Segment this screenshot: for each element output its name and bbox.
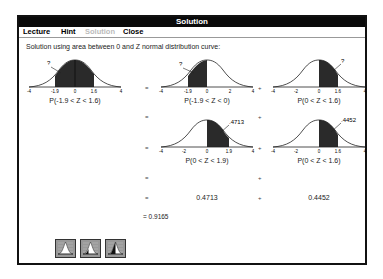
caption-graph-4: P(0 < Z < 1.9)	[157, 157, 257, 164]
svg-text:4: 4	[120, 89, 123, 94]
equals-sign: =	[145, 85, 149, 91]
svg-text:1.9: 1.9	[226, 149, 233, 154]
normal-curve-graph-2: ? -4-1.9024	[157, 55, 257, 99]
svg-text:2: 2	[229, 89, 232, 94]
svg-text:4: 4	[252, 89, 255, 94]
unshaded-curve-button[interactable]	[55, 239, 76, 258]
menu-bar: Lecture Hint Solution Close	[19, 27, 365, 38]
plus-sign: +	[258, 114, 262, 120]
svg-text:.4713: .4713	[229, 119, 245, 125]
value-right: 0.4452	[269, 194, 369, 201]
svg-text:4: 4	[252, 149, 255, 154]
svg-text:?: ?	[47, 60, 51, 66]
svg-text:.4452: .4452	[341, 117, 357, 123]
plus-sign: +	[258, 85, 262, 91]
normal-curve-partial-icon	[81, 240, 100, 257]
menu-lecture[interactable]: Lecture	[23, 27, 50, 37]
value-left: 0.4713	[157, 194, 257, 201]
svg-text:?: ?	[179, 61, 183, 67]
svg-text:?: ?	[341, 58, 345, 64]
caption-graph-5: P(0 < Z < 1.6)	[269, 157, 369, 164]
svg-text:1.6: 1.6	[335, 89, 342, 94]
normal-curve-graph-4: .4713 -4-201.94	[157, 115, 257, 159]
caption-graph-3: P(0 < Z < 1.6)	[269, 97, 369, 104]
svg-text:0: 0	[206, 149, 209, 154]
normal-curve-icon	[56, 240, 75, 257]
svg-text:-2: -2	[182, 149, 186, 154]
caption-graph-2: P(-1.9 < Z < 0)	[157, 97, 257, 104]
result-value: = 0.9165	[143, 213, 168, 220]
normal-curve-shaded-icon	[106, 240, 125, 257]
equals-sign: =	[145, 114, 149, 120]
svg-text:-4: -4	[271, 149, 275, 154]
equals-sign: =	[145, 175, 149, 181]
normal-curve-graph-3: ? -4-201.64	[269, 55, 369, 99]
svg-text:0: 0	[318, 89, 321, 94]
plus-sign: +	[258, 175, 262, 181]
equals-sign: =	[145, 195, 149, 201]
svg-text:0: 0	[74, 89, 77, 94]
menu-close[interactable]: Close	[123, 27, 143, 37]
svg-text:-4: -4	[27, 89, 31, 94]
svg-text:0: 0	[206, 89, 209, 94]
menu-solution: Solution	[85, 27, 115, 37]
svg-text:1.6: 1.6	[335, 149, 342, 154]
svg-text:-1.9: -1.9	[184, 89, 192, 94]
caption-graph-1: P(-1.9 < Z < 1.6)	[25, 97, 125, 104]
svg-text:-1.9: -1.9	[51, 89, 59, 94]
plus-sign: +	[258, 195, 262, 201]
equals-sign: =	[145, 145, 149, 151]
svg-text:1.6: 1.6	[91, 89, 98, 94]
partial-shaded-curve-button[interactable]	[80, 239, 101, 258]
svg-text:4: 4	[364, 149, 367, 154]
plus-sign: +	[258, 145, 262, 151]
svg-text:0: 0	[318, 149, 321, 154]
svg-text:-4: -4	[271, 89, 275, 94]
shaded-curve-button[interactable]	[105, 239, 126, 258]
solution-window: Solution Lecture Hint Solution Close Sol…	[17, 15, 367, 265]
svg-text:-2: -2	[294, 89, 298, 94]
svg-text:4: 4	[364, 89, 367, 94]
intro-text: Solution using area between 0 and Z norm…	[26, 43, 220, 50]
normal-curve-graph-5: .4452 -4-201.64	[269, 115, 369, 159]
svg-text:-2: -2	[294, 149, 298, 154]
menu-hint[interactable]: Hint	[61, 27, 76, 37]
svg-text:-4: -4	[159, 149, 163, 154]
svg-text:-4: -4	[159, 89, 163, 94]
window-title: Solution	[19, 17, 365, 27]
normal-curve-graph-1: ? -4-1.901.64	[25, 55, 125, 99]
